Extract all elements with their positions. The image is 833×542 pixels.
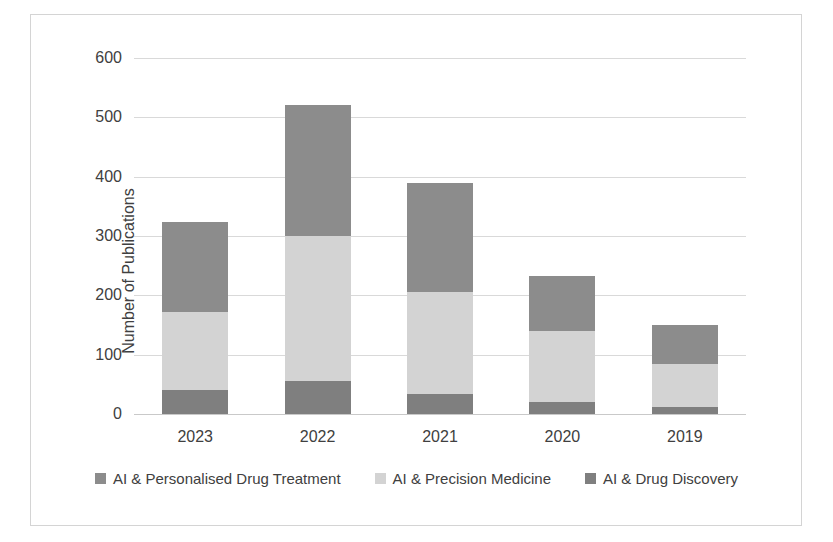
legend-label: AI & Drug Discovery	[603, 470, 738, 487]
gridline-0	[134, 414, 746, 415]
y-tick-label: 600	[95, 50, 122, 66]
bar-segment[interactable]	[407, 394, 473, 414]
x-tick-label: 2020	[501, 428, 623, 446]
legend-swatch-icon	[375, 473, 386, 484]
legend-label: AI & Precision Medicine	[393, 470, 551, 487]
y-tick-label: 0	[113, 406, 122, 422]
y-tick-label: 200	[95, 287, 122, 303]
legend-item[interactable]: AI & Personalised Drug Treatment	[95, 470, 341, 487]
chart-legend: AI & Personalised Drug TreatmentAI & Pre…	[0, 470, 833, 487]
bar-segment[interactable]	[529, 331, 595, 402]
x-tick-label: 2019	[624, 428, 746, 446]
bar-group[interactable]	[529, 58, 595, 414]
bar-segment[interactable]	[529, 402, 595, 414]
bar-segment[interactable]	[285, 105, 351, 236]
legend-label: AI & Personalised Drug Treatment	[113, 470, 341, 487]
bar-segment[interactable]	[162, 390, 228, 414]
y-tick-label: 500	[95, 109, 122, 125]
bar-group[interactable]	[285, 58, 351, 414]
bar-segment[interactable]	[652, 325, 718, 364]
y-tick-label: 100	[95, 347, 122, 363]
bar-group[interactable]	[407, 58, 473, 414]
legend-item[interactable]: AI & Drug Discovery	[585, 470, 738, 487]
legend-swatch-icon	[585, 473, 596, 484]
y-tick-label: 300	[95, 228, 122, 244]
chart-container: Number of Publications AI & Personalised…	[0, 0, 833, 542]
bar-segment[interactable]	[652, 364, 718, 407]
bar-group[interactable]	[652, 58, 718, 414]
x-tick-label: 2021	[379, 428, 501, 446]
bar-segment[interactable]	[285, 236, 351, 381]
x-tick-label: 2023	[134, 428, 256, 446]
bar-segment[interactable]	[529, 276, 595, 331]
bar-segment[interactable]	[162, 222, 228, 312]
bar-segment[interactable]	[407, 292, 473, 394]
bars-layer	[134, 58, 746, 414]
x-tick-label: 2022	[256, 428, 378, 446]
bar-segment[interactable]	[162, 312, 228, 390]
y-tick-label: 400	[95, 169, 122, 185]
bar-segment[interactable]	[407, 183, 473, 293]
bar-segment[interactable]	[652, 407, 718, 414]
bar-segment[interactable]	[285, 381, 351, 414]
bar-group[interactable]	[162, 58, 228, 414]
legend-item[interactable]: AI & Precision Medicine	[375, 470, 551, 487]
plot-area	[134, 58, 746, 414]
legend-swatch-icon	[95, 473, 106, 484]
